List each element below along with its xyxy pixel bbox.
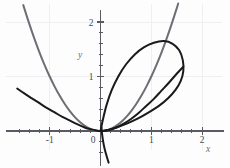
x-axis-label: x — [205, 144, 211, 154]
y-tick-label: 2 — [89, 18, 94, 28]
x-tick-label: 2 — [200, 135, 205, 145]
x-tick-label: 1 — [149, 135, 154, 145]
plot-figure: -101221 y x — [0, 0, 230, 168]
y-axis-label: y — [77, 50, 83, 60]
x-tick-label: -1 — [46, 135, 54, 145]
y-tick-label: 1 — [89, 72, 94, 82]
plot-canvas: -101221 y x — [0, 0, 230, 168]
x-tick-label: 0 — [91, 135, 96, 145]
